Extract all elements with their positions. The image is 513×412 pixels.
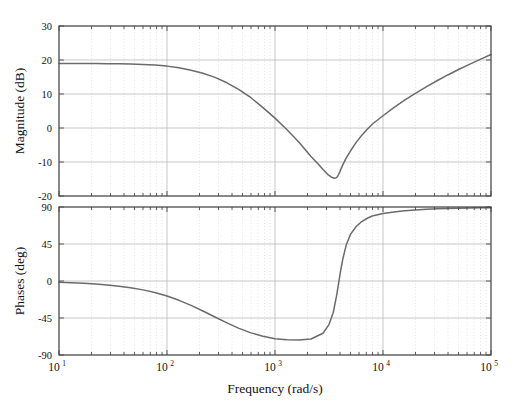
- x-tick-label-base: 10: [264, 361, 276, 373]
- y-tick-label: 20: [42, 55, 53, 66]
- x-tick-label-exponent: 4: [386, 359, 390, 368]
- phase-panel: -90-4504590Phases (deg): [12, 202, 491, 361]
- y-tick-label: -45: [38, 313, 52, 324]
- x-tick-label-exponent: 1: [62, 359, 66, 368]
- y-tick-label: 45: [42, 239, 53, 250]
- magnitude-panel: -20-100102030Magnitude (dB): [12, 21, 491, 202]
- frequency-axis-title: Frequency (rad/s): [227, 381, 323, 396]
- x-tick-label-exponent: 2: [170, 359, 174, 368]
- x-tick-label-base: 10: [48, 361, 60, 373]
- y-tick-label: 30: [42, 21, 53, 32]
- x-tick-label-exponent: 3: [278, 359, 282, 368]
- x-tick-label-exponent: 5: [494, 359, 498, 368]
- x-tick-label: 103: [264, 359, 282, 373]
- x-tick-label: 102: [156, 359, 174, 373]
- y-tick-label: -20: [38, 191, 52, 202]
- magnitude-axis-title: Magnitude (dB): [12, 68, 27, 155]
- y-tick-label: -90: [38, 350, 52, 361]
- y-tick-label: 0: [47, 123, 52, 134]
- y-tick-label: -10: [38, 157, 52, 168]
- phase-axis-title: Phases (deg): [12, 247, 27, 316]
- x-tick-label-base: 10: [372, 361, 384, 373]
- y-tick-label: 10: [42, 89, 53, 100]
- x-tick-label: 105: [480, 359, 498, 373]
- x-tick-label: 104: [372, 359, 390, 373]
- x-tick-label: 101: [48, 359, 66, 373]
- x-tick-label-base: 10: [480, 361, 492, 373]
- y-tick-label: 90: [42, 202, 53, 213]
- bode-plot-figure: -20-100102030Magnitude (dB)-90-4504590Ph…: [0, 0, 513, 412]
- x-tick-label-base: 10: [156, 361, 168, 373]
- bode-plot-svg: -20-100102030Magnitude (dB)-90-4504590Ph…: [0, 0, 513, 412]
- y-tick-label: 0: [47, 276, 52, 287]
